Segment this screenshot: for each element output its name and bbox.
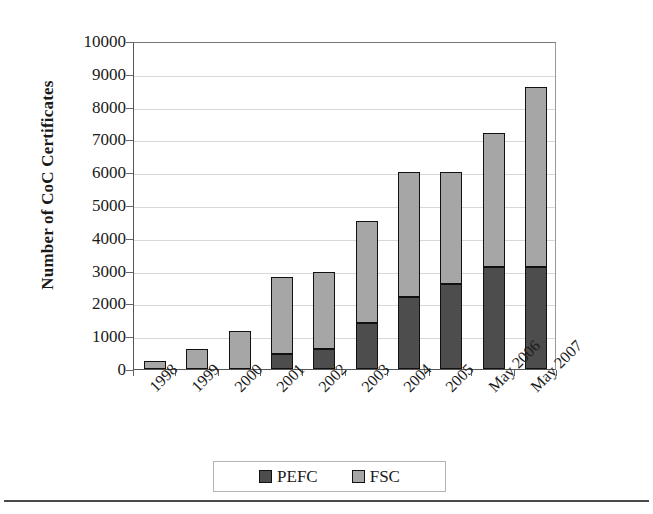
y-tick-mark bbox=[126, 206, 133, 207]
y-tick-mark bbox=[126, 370, 133, 371]
y-tick-mark bbox=[126, 272, 133, 273]
plot-area bbox=[133, 42, 556, 370]
y-tick-mark bbox=[126, 173, 133, 174]
legend-item-pefc: PEFC bbox=[259, 468, 318, 485]
chart-legend: PEFC FSC bbox=[213, 461, 446, 492]
gridline bbox=[134, 109, 555, 110]
bar-segment-pefc bbox=[398, 297, 420, 369]
bar-group bbox=[525, 87, 547, 369]
legend-item-fsc: FSC bbox=[352, 468, 400, 485]
bar-segment-fsc bbox=[271, 277, 293, 354]
bar-segment-pefc bbox=[483, 267, 505, 369]
bar-segment-fsc bbox=[229, 331, 251, 369]
y-tick-label: 6000 bbox=[40, 164, 126, 181]
bar-segment-fsc bbox=[440, 172, 462, 284]
bar-group bbox=[356, 221, 378, 369]
y-tick-label: 7000 bbox=[40, 131, 126, 148]
bar-segment-pefc bbox=[440, 284, 462, 369]
bar-group bbox=[271, 277, 293, 369]
legend-label-pefc: PEFC bbox=[277, 468, 318, 485]
y-tick-mark bbox=[126, 75, 133, 76]
y-tick-mark bbox=[126, 140, 133, 141]
legend-swatch-pefc bbox=[259, 470, 272, 483]
chart-figure: Number of CoC Certificates 1000090008000… bbox=[0, 0, 653, 514]
legend-swatch-fsc bbox=[352, 470, 365, 483]
y-tick-mark bbox=[126, 337, 133, 338]
gridline bbox=[134, 76, 555, 77]
bar-segment-pefc bbox=[356, 323, 378, 369]
legend-label-fsc: FSC bbox=[370, 468, 400, 485]
y-tick-label: 5000 bbox=[40, 197, 126, 214]
bar-group bbox=[229, 331, 251, 369]
y-tick-label: 2000 bbox=[40, 295, 126, 312]
bar-segment-fsc bbox=[356, 221, 378, 323]
bar-group bbox=[483, 133, 505, 369]
y-tick-label: 10000 bbox=[40, 33, 126, 50]
footer-divider bbox=[4, 500, 649, 502]
x-tick-mark bbox=[133, 370, 134, 376]
y-tick-mark bbox=[126, 239, 133, 240]
y-tick-mark bbox=[126, 304, 133, 305]
bar-segment-fsc bbox=[313, 272, 335, 349]
y-tick-mark bbox=[126, 108, 133, 109]
y-tick-label: 4000 bbox=[40, 230, 126, 247]
y-tick-label: 9000 bbox=[40, 66, 126, 83]
bar-group bbox=[440, 172, 462, 369]
bar-segment-fsc bbox=[525, 87, 547, 267]
bar-group bbox=[313, 272, 335, 369]
y-tick-label: 3000 bbox=[40, 263, 126, 280]
y-tick-mark bbox=[126, 42, 133, 43]
y-tick-label: 8000 bbox=[40, 99, 126, 116]
y-tick-label: 1000 bbox=[40, 328, 126, 345]
y-tick-label: 0 bbox=[40, 361, 126, 378]
bar-group bbox=[398, 172, 420, 369]
bar-segment-fsc bbox=[483, 133, 505, 267]
bar-segment-fsc bbox=[398, 172, 420, 297]
